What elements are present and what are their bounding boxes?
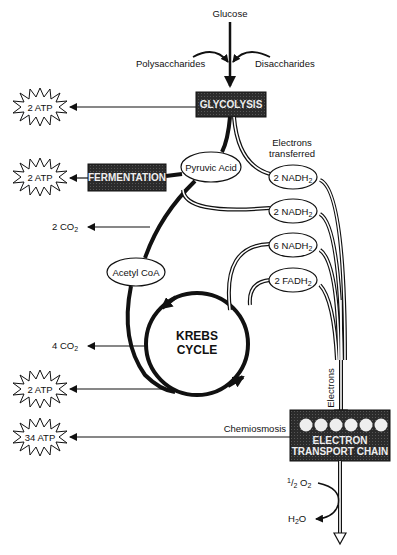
- pyruvic-acid-label: Pyruvic Acid: [185, 162, 237, 173]
- pyruvic-acid-node: Pyruvic Acid: [181, 152, 241, 182]
- etc-output-arrowhead: [334, 533, 346, 544]
- atp-burst-3: 2 ATP: [13, 370, 67, 408]
- co2-label-1: 2 CO2: [52, 221, 78, 233]
- oxygen-label: 1/2 O2: [287, 477, 311, 489]
- atp-label-4: 34 ATP: [25, 432, 55, 443]
- acetyl-coa-node: Acetyl CoA: [107, 258, 165, 286]
- carrier-nadh-3: 6 NADH2: [269, 233, 317, 257]
- atp-burst-2: 2 ATP: [13, 158, 67, 196]
- glycolysis-label: GLYCOLYSIS: [200, 99, 263, 110]
- pyruvic-fermentation-link: [166, 174, 182, 176]
- acetyl-coa-label: Acetyl CoA: [113, 267, 161, 278]
- svg-text:6 NADH2: 6 NADH2: [274, 240, 313, 252]
- atp-label-2: 2 ATP: [27, 172, 52, 183]
- etc-label-1: ELECTRON: [313, 435, 368, 446]
- glycolysis-box: GLYCOLYSIS: [196, 92, 266, 117]
- svg-text:2 NADH2: 2 NADH2: [274, 172, 313, 184]
- atp-burst-4: 34 ATP: [13, 418, 67, 456]
- electrons-transferred-label-1: Electrons: [272, 137, 312, 148]
- fermentation-label: FERMENTATION: [88, 172, 166, 183]
- glycolysis-pyruvic-link: [222, 117, 230, 152]
- carrier-fadh: 2 FADH2: [269, 268, 317, 292]
- oxygen-water-arrow: [316, 483, 339, 519]
- atp-label-3: 2 ATP: [27, 384, 52, 395]
- electrons-transferred-label-2: transferred: [269, 148, 315, 159]
- electrons-label: Electrons: [325, 368, 336, 408]
- svg-text:2 NADH2: 2 NADH2: [274, 206, 313, 218]
- krebs-label-1: KREBS: [176, 329, 218, 343]
- carrier-nadh-1: 2 NADH2: [269, 165, 317, 189]
- water-label: H2O: [288, 513, 306, 525]
- atp-burst-1: 2 ATP: [13, 88, 67, 126]
- chemiosmosis-label: Chemiosmosis: [224, 423, 287, 434]
- etc-box: ELECTRON TRANSPORT CHAIN: [290, 410, 390, 461]
- fermentation-box: FERMENTATION: [88, 164, 166, 191]
- svg-text:2 FADH2: 2 FADH2: [274, 275, 311, 287]
- etc-label-2: TRANSPORT CHAIN: [292, 446, 389, 457]
- krebs-cycle: KREBS CYCLE: [146, 293, 248, 395]
- co2-label-2: 4 CO2: [52, 340, 78, 352]
- krebs-label-2: CYCLE: [177, 343, 218, 357]
- glucose-label: Glucose: [213, 8, 248, 19]
- pyruvic-acetyl-link: [145, 181, 195, 258]
- atp-label-1: 2 ATP: [27, 102, 52, 113]
- carrier-nadh-2: 2 NADH2: [269, 199, 317, 223]
- disaccharides-label: Disaccharides: [255, 58, 315, 69]
- respiration-diagram: Glucose Polysaccharides Disaccharides GL…: [0, 0, 397, 555]
- polysaccharides-label: Polysaccharides: [136, 58, 205, 69]
